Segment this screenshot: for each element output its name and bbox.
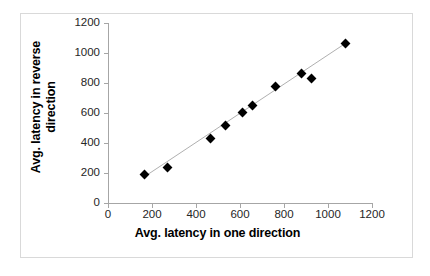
x-tick-label: 600 bbox=[220, 209, 260, 220]
y-tick-label: 600 bbox=[66, 107, 100, 118]
x-tick-label: 0 bbox=[88, 209, 128, 220]
x-tick-label: 1200 bbox=[352, 209, 392, 220]
y-tick-label: 200 bbox=[66, 167, 100, 178]
x-tick-label: 400 bbox=[176, 209, 216, 220]
x-tick-label: 200 bbox=[132, 209, 172, 220]
y-tick-label: 800 bbox=[66, 77, 100, 88]
y-axis-title-line-1: Avg. latency in reverse bbox=[29, 22, 44, 192]
plot-area: 020040060080010001200 020040060080010001… bbox=[108, 23, 372, 203]
x-tick-label: 800 bbox=[264, 209, 304, 220]
y-axis-title-line-2: direction bbox=[44, 22, 59, 192]
chart-container: Avg. latency in reverse direction 020040… bbox=[20, 13, 413, 258]
y-tick-label: 400 bbox=[66, 137, 100, 148]
y-axis-title: Avg. latency in reverse direction bbox=[29, 22, 59, 192]
y-tick-label: 0 bbox=[66, 197, 100, 208]
y-tick-label: 1200 bbox=[66, 17, 100, 28]
x-axis-title: Avg. latency in one direction bbox=[21, 226, 414, 240]
y-tick-label: 1000 bbox=[66, 47, 100, 58]
x-tick-label: 1000 bbox=[308, 209, 348, 220]
